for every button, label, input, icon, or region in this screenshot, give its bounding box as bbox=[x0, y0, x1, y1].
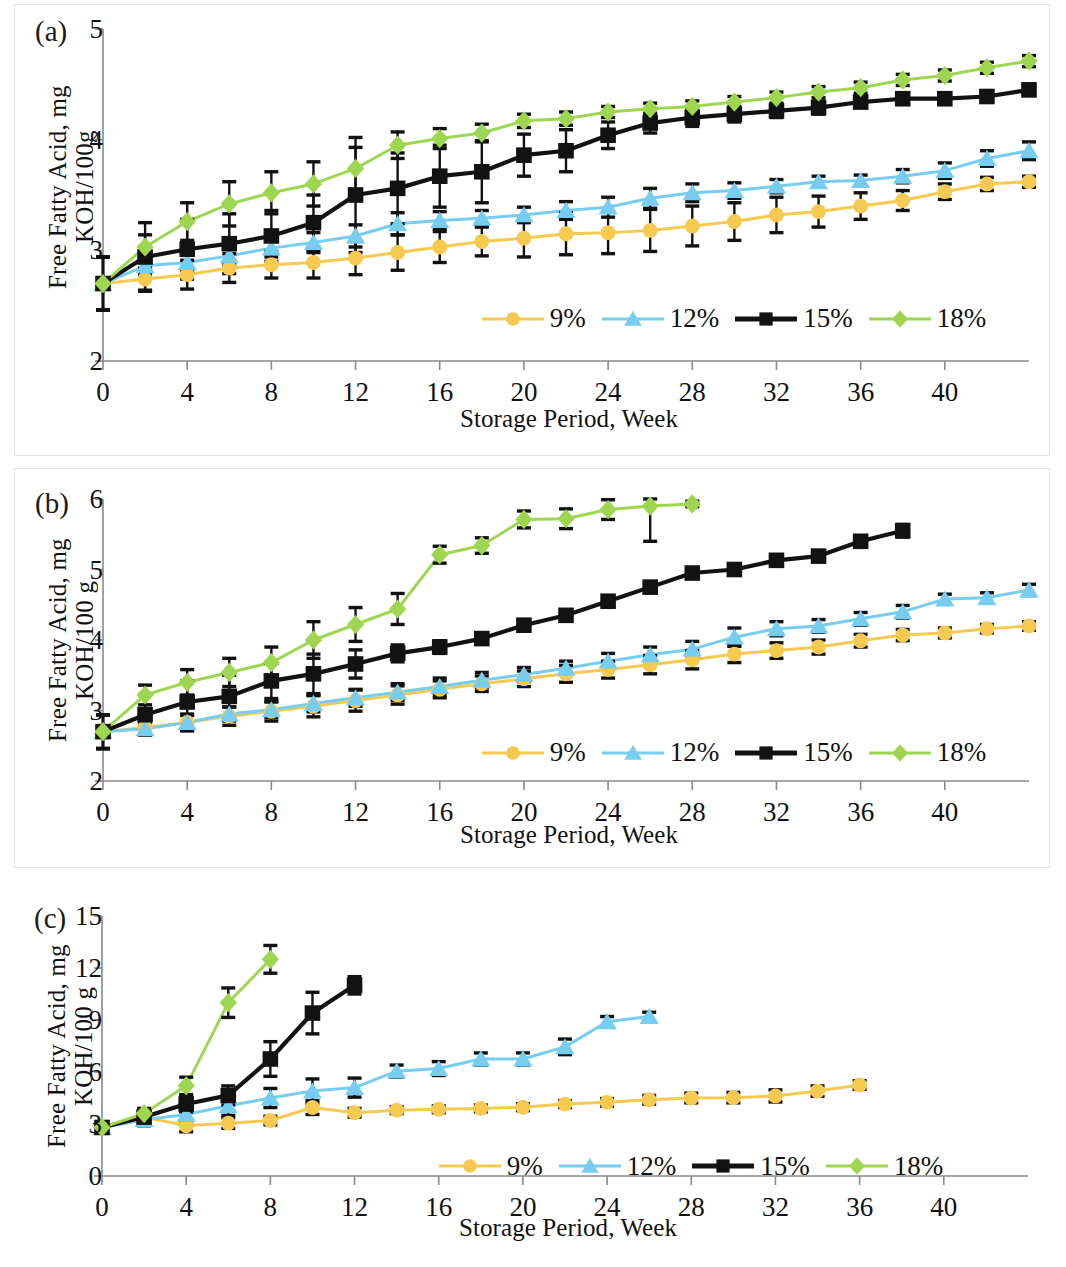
legend-label: 15% bbox=[803, 303, 853, 334]
legend-circle-icon bbox=[482, 740, 544, 766]
legend-label: 12% bbox=[627, 1151, 677, 1182]
x-tick-label: 12 bbox=[342, 377, 369, 408]
panel-a-ylabel: Free Fatty Acid, mg KOH/100g bbox=[45, 37, 107, 337]
chart-canvas-b bbox=[103, 491, 1035, 841]
legend-label: 18% bbox=[937, 737, 987, 768]
legend-square-icon bbox=[735, 740, 797, 766]
y-tick-label: 4 bbox=[41, 625, 112, 656]
panel-c-plot: 0369121504812162024283236409%12%15%18% bbox=[102, 908, 1034, 1176]
y-tick-label: 5 bbox=[41, 554, 112, 585]
panel-a: (a) Free Fatty Acid, mg KOH/100g 2345048… bbox=[14, 4, 1050, 456]
y-tick-label: 3 bbox=[41, 695, 112, 726]
legend-diamond-icon bbox=[869, 306, 931, 332]
y-tick-label: 2 bbox=[41, 766, 112, 797]
legend-circle-icon bbox=[482, 306, 544, 332]
x-tick-label: 20 bbox=[510, 377, 537, 408]
legend-square-icon bbox=[692, 1153, 754, 1179]
x-tick-label: 36 bbox=[847, 377, 874, 408]
x-tick-label: 8 bbox=[265, 377, 279, 408]
x-tick-label: 4 bbox=[180, 377, 194, 408]
legend-label: 9% bbox=[550, 303, 586, 334]
x-tick-label: 16 bbox=[426, 377, 453, 408]
legend-triangle-icon bbox=[602, 740, 664, 766]
markers-9pct bbox=[95, 1078, 868, 1135]
x-tick-label: 40 bbox=[931, 377, 958, 408]
chart-canvas-c bbox=[102, 908, 1034, 1236]
legend-item-15pct[interactable]: 15% bbox=[735, 737, 853, 768]
legend-item-12pct[interactable]: 12% bbox=[602, 303, 720, 334]
x-tick-label: 0 bbox=[96, 377, 110, 408]
panel-a-xlabel: Storage Period, Week bbox=[103, 405, 1035, 433]
chart-legend: 9%12%15%18% bbox=[439, 1151, 944, 1182]
errorbars-9pct bbox=[96, 622, 1036, 749]
x-tick-label: 28 bbox=[679, 377, 706, 408]
legend-circle-icon bbox=[439, 1153, 501, 1179]
markers-9pct bbox=[96, 174, 1037, 291]
legend-item-18pct[interactable]: 18% bbox=[869, 737, 987, 768]
legend-label: 18% bbox=[894, 1151, 944, 1182]
chart-legend: 9%12%15%18% bbox=[482, 303, 987, 334]
legend-label: 9% bbox=[550, 737, 586, 768]
legend-label: 12% bbox=[670, 737, 720, 768]
legend-label: 12% bbox=[670, 303, 720, 334]
legend-diamond-icon bbox=[869, 740, 931, 766]
legend-item-18pct[interactable]: 18% bbox=[826, 1151, 944, 1182]
y-tick-label: 15 bbox=[40, 901, 111, 932]
y-tick-label: 9 bbox=[40, 1005, 111, 1036]
legend-diamond-icon bbox=[826, 1153, 888, 1179]
legend-item-15pct[interactable]: 15% bbox=[692, 1151, 810, 1182]
chart-legend: 9%12%15%18% bbox=[482, 737, 987, 768]
legend-label: 9% bbox=[507, 1151, 543, 1182]
legend-item-9pct[interactable]: 9% bbox=[439, 1151, 543, 1182]
legend-item-9pct[interactable]: 9% bbox=[482, 737, 586, 768]
x-tick-label: 32 bbox=[763, 377, 790, 408]
legend-square-icon bbox=[735, 306, 797, 332]
legend-label: 15% bbox=[760, 1151, 810, 1182]
chart-canvas-a bbox=[103, 21, 1035, 421]
legend-label: 15% bbox=[803, 737, 853, 768]
panel-a-plot: 234504812162024283236409%12%15%18% bbox=[103, 21, 1035, 361]
y-tick-label: 0 bbox=[40, 1161, 111, 1192]
panel-b-plot: 2345604812162024283236409%12%15%18% bbox=[103, 491, 1035, 781]
x-tick-label: 24 bbox=[595, 377, 622, 408]
legend-label: 18% bbox=[937, 303, 987, 334]
y-tick-label: 5 bbox=[41, 14, 112, 45]
y-tick-label: 6 bbox=[41, 484, 112, 515]
panel-c: (c) Free Fatty Acid, mg KOH/100 g 036912… bbox=[14, 884, 1050, 1262]
y-tick-label: 6 bbox=[40, 1057, 111, 1088]
panel-b-xlabel: Storage Period, Week bbox=[103, 821, 1035, 849]
y-tick-label: 12 bbox=[40, 953, 111, 984]
legend-triangle-icon bbox=[602, 306, 664, 332]
legend-item-15pct[interactable]: 15% bbox=[735, 303, 853, 334]
legend-item-9pct[interactable]: 9% bbox=[482, 303, 586, 334]
legend-item-12pct[interactable]: 12% bbox=[602, 737, 720, 768]
legend-item-12pct[interactable]: 12% bbox=[559, 1151, 677, 1182]
legend-triangle-icon bbox=[559, 1153, 621, 1179]
panel-b: (b) Free Fatty Acid, mg KOH/100 g 234560… bbox=[14, 468, 1050, 868]
y-tick-label: 4 bbox=[41, 124, 112, 155]
y-tick-label: 3 bbox=[41, 235, 112, 266]
panel-c-xlabel: Storage Period, Week bbox=[102, 1214, 1034, 1242]
y-tick-label: 2 bbox=[41, 346, 112, 377]
y-tick-label: 3 bbox=[40, 1109, 111, 1140]
legend-item-18pct[interactable]: 18% bbox=[869, 303, 987, 334]
